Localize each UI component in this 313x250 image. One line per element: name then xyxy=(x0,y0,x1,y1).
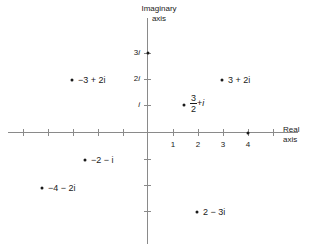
real-axis-title: Real axis xyxy=(283,125,313,145)
y-tick-neg1i xyxy=(144,159,151,160)
x-tick-label-4: 4 xyxy=(246,141,250,149)
y-tick-1i xyxy=(144,105,151,106)
data-point-3i xyxy=(147,52,150,55)
data-point-neg2-minus-i xyxy=(84,159,87,162)
real-axis-line xyxy=(8,132,298,133)
y-tick-label-1i: i xyxy=(116,101,140,109)
x-tick-5 xyxy=(273,129,274,136)
y-tick-label-2i-unit: i xyxy=(138,74,140,83)
x-tick-label-1: 1 xyxy=(171,141,175,149)
complex-plane-chart: Imaginary axis Real axis 1 2 3 4 3i 2i i… xyxy=(0,0,313,250)
data-point-label-neg2-minus-i: −2 − i xyxy=(91,156,114,165)
x-tick-neg5 xyxy=(23,129,24,136)
data-point-three-halves-plus-i xyxy=(183,104,186,107)
data-point-2-minus-3i xyxy=(196,211,199,214)
fraction-denominator: 2 xyxy=(190,104,197,114)
label-text-3-plus-2i: 3 + 2i xyxy=(228,75,250,85)
data-point-label-3-plus-2i: 3 + 2i xyxy=(228,76,250,85)
y-tick-label-3i-unit: i xyxy=(138,48,140,57)
label-text-neg3-plus-2i: −3 + 2i xyxy=(78,75,106,85)
fraction-imaginary-unit: i xyxy=(202,98,204,108)
x-tick-label-2: 2 xyxy=(196,141,200,149)
x-tick-1 xyxy=(173,129,174,136)
y-tick-neg3i xyxy=(144,211,151,212)
data-point-4 xyxy=(247,132,250,135)
data-point-3-plus-2i xyxy=(221,79,224,82)
data-point-label-neg4-minus-2i: −4 − 2i xyxy=(48,184,76,193)
data-point-label-2-minus-3i: 2 − 3i xyxy=(203,208,225,217)
label-text-2-minus-3i: 2 − 3i xyxy=(203,207,225,217)
x-tick-neg1 xyxy=(123,129,124,136)
x-tick-3 xyxy=(223,129,224,136)
data-point-neg4-minus-2i xyxy=(41,187,44,190)
y-tick-2i xyxy=(144,79,151,80)
y-tick-label-1i-unit: i xyxy=(138,100,140,109)
y-tick-label-3i: 3i xyxy=(116,49,140,57)
x-tick-2 xyxy=(198,129,199,136)
label-text-neg4-minus-2i: −4 − 2i xyxy=(48,183,76,193)
y-tick-label-2i: 2i xyxy=(116,75,140,83)
y-tick-neg2i xyxy=(144,185,151,186)
data-point-label-neg3-plus-2i: −3 + 2i xyxy=(78,76,106,85)
x-tick-neg3 xyxy=(73,129,74,136)
label-text-neg2-minus-i: −2 − i xyxy=(91,155,114,165)
x-tick-neg4 xyxy=(48,129,49,136)
data-point-neg3-plus-2i xyxy=(71,79,74,82)
x-tick-label-3: 3 xyxy=(221,141,225,149)
fraction-numerator: 3 xyxy=(190,94,197,105)
imaginary-axis-title: Imaginary axis xyxy=(129,4,189,24)
fraction-three-halves: 32 xyxy=(190,94,197,114)
x-tick-neg2 xyxy=(98,129,99,136)
data-point-label-three-halves-plus-i: 32+i xyxy=(190,94,204,114)
